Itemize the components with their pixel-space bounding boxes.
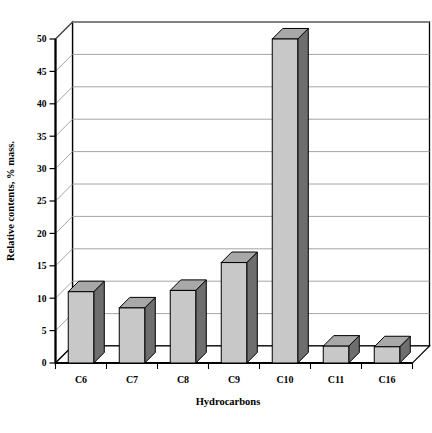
tick-label-y: 5 <box>42 326 47 336</box>
tick-label-y: 20 <box>37 229 47 239</box>
chart-canvas: 05101520253035404550C6: 11C7: 8.5C8: 11.… <box>0 0 432 433</box>
bar-side-face <box>145 297 156 363</box>
x-axis-title: Hydrocarbons <box>196 396 261 407</box>
bar-C6[interactable]: C6: 11 <box>68 281 104 363</box>
bar-front-face <box>323 346 349 363</box>
category-label-C9: C9 <box>228 374 240 385</box>
category-label-C10: C10 <box>276 374 293 385</box>
bar-C8[interactable]: C8: 11.2 <box>170 280 206 363</box>
bar-front-face <box>68 292 94 363</box>
bar-side-face <box>298 28 309 363</box>
bar-C10[interactable]: C10: 50 <box>272 28 308 363</box>
bar-front-face <box>272 39 298 363</box>
bar-front-face <box>119 308 145 363</box>
tick-label-y: 40 <box>37 99 47 109</box>
tick-label-y: 0 <box>42 358 47 368</box>
bar-C9[interactable]: C9: 15.5 <box>221 252 257 363</box>
category-label-C16: C16 <box>378 374 395 385</box>
bar-side-face <box>94 281 105 363</box>
tick-label-y: 30 <box>37 164 47 174</box>
bar-C7[interactable]: C7: 8.5 <box>119 297 155 363</box>
tick-label-y: 25 <box>37 196 47 206</box>
bar-side-face <box>196 280 207 363</box>
tick-label-y: 10 <box>37 294 47 304</box>
tick-label-y: 45 <box>37 67 47 77</box>
bar-front-face <box>170 290 196 363</box>
bar-side-face <box>247 252 258 363</box>
y-axis-title: Relative contents, % mass. <box>5 141 16 261</box>
bar-front-face <box>374 347 400 363</box>
bar-front-face <box>221 263 247 363</box>
tick-label-y: 50 <box>37 34 47 44</box>
category-label-C6: C6 <box>75 374 87 385</box>
category-label-C7: C7 <box>126 374 138 385</box>
tick-label-y: 35 <box>37 132 47 142</box>
bar-chart-3d: 05101520253035404550C6: 11C7: 8.5C8: 11.… <box>0 0 432 433</box>
tick-label-y: 15 <box>37 261 47 271</box>
category-label-C8: C8 <box>177 374 189 385</box>
category-label-C11: C11 <box>328 374 345 385</box>
